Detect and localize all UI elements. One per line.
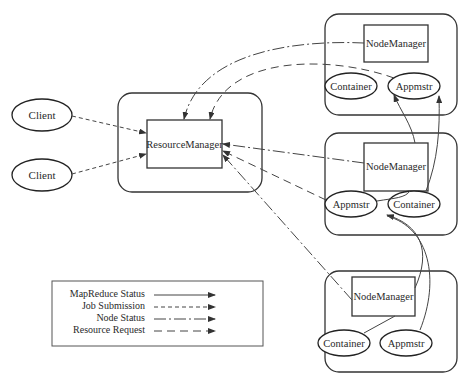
legend-label: Resource Request xyxy=(73,324,145,335)
resource-manager-label: ResourceManager xyxy=(146,139,223,150)
client-node-2: Client xyxy=(12,159,72,191)
node-2-node-manager-label: NodeManager xyxy=(366,161,427,172)
legend-label: MapReduce Status xyxy=(70,288,145,299)
node-3-group: NodeManager Container Appmstr xyxy=(318,271,457,372)
client-label: Client xyxy=(29,169,56,181)
client-label: Client xyxy=(29,109,56,121)
node-1-appmstr-label: Appmstr xyxy=(396,81,433,92)
node-1-container-label: Container xyxy=(330,81,372,92)
node-3-appmstr-label: Appmstr xyxy=(388,338,425,349)
node-1-node-manager-label: NodeManager xyxy=(366,38,427,49)
yarn-architecture-diagram: Client Client ResourceManager NodeManage… xyxy=(0,0,468,384)
legend-label: Job Submission xyxy=(82,300,145,311)
node-2-appmstr-label: Appmstr xyxy=(333,199,370,210)
client-node-1: Client xyxy=(12,99,72,131)
legend-label: Node Status xyxy=(96,312,145,323)
legend: MapReduce Status Job Submission Node Sta… xyxy=(52,281,263,346)
node-1-group: NodeManager Container Appmstr xyxy=(325,14,457,115)
resource-manager-group: ResourceManager xyxy=(118,93,262,192)
node-3-node-manager-label: NodeManager xyxy=(353,291,414,302)
node-2-container-label: Container xyxy=(393,199,435,210)
node-3-container-label: Container xyxy=(323,338,365,349)
